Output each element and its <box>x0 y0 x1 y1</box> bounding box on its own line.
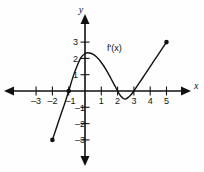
right-endpoint-dot <box>164 40 169 45</box>
coordinate-plane: –3 –2 –1 1 2 3 4 5 3 2 1 –1 –2 –3 y x f'… <box>0 0 204 172</box>
x-axis-right-arrow <box>181 87 191 96</box>
y-tick-label-3: 3 <box>73 37 78 47</box>
curve-label: f'(x) <box>107 43 122 53</box>
x-tick-label-3: 3 <box>131 96 136 106</box>
x-axis-label: x <box>193 80 199 91</box>
x-tick-label-2: 2 <box>115 96 120 106</box>
x-intercept-dot <box>66 89 71 94</box>
graph-figure: –3 –2 –1 1 2 3 4 5 3 2 1 –1 –2 –3 y x f'… <box>0 0 204 172</box>
y-axis-up-arrow <box>81 14 90 24</box>
x-axis-left-arrow <box>4 87 14 96</box>
left-endpoint-dot <box>50 138 55 143</box>
x-tick-label-4: 4 <box>148 96 153 106</box>
y-tick-label-2: 2 <box>73 54 78 64</box>
y-tick-label-neg3: –3 <box>75 135 85 145</box>
x-tick-label-neg2: –2 <box>47 96 57 106</box>
y-tick-label-neg2: –2 <box>75 119 85 129</box>
x-tick-label-1: 1 <box>99 96 104 106</box>
x-tick-label-5: 5 <box>164 96 169 106</box>
y-tick-label-neg1: –1 <box>75 103 85 113</box>
x-tick-label-neg3: –3 <box>31 96 41 106</box>
y-axis-down-arrow <box>81 156 90 166</box>
y-axis-label: y <box>78 4 84 15</box>
